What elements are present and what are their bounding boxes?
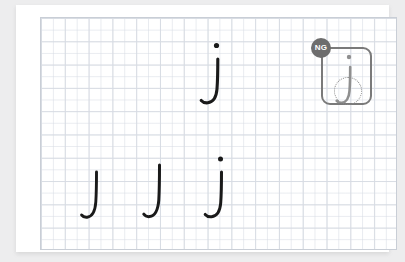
- j-glyph-svg: [196, 39, 236, 111]
- j-dot: [214, 43, 219, 48]
- j-stem-stroke: [201, 59, 218, 103]
- paper-card: NG: [16, 5, 389, 252]
- stroke-model-j: [196, 39, 236, 111]
- j-stem-stroke: [144, 165, 160, 217]
- error-marker-dotted-circle: [334, 77, 362, 105]
- ng-badge[interactable]: NG: [311, 38, 331, 58]
- j-hook-glyph-svg: [78, 168, 114, 226]
- j-dot: [218, 157, 223, 162]
- j-hook-glyph-svg: [140, 161, 176, 225]
- j-stem-stroke: [205, 172, 221, 217]
- stroke-practice-hook-2: [140, 161, 176, 225]
- j-glyph-svg: [200, 153, 238, 225]
- j-stem-stroke: [82, 172, 97, 217]
- worksheet-app: NG: [0, 0, 405, 262]
- stroke-practice-hook-1: [78, 168, 114, 226]
- stroke-practice-j-3: [200, 153, 238, 225]
